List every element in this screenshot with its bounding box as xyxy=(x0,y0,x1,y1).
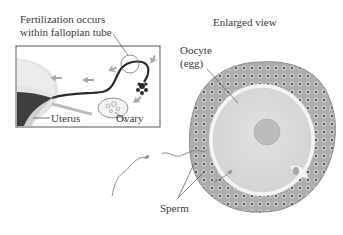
oocyte-label-line1: Oocyte xyxy=(180,44,212,56)
nucleus xyxy=(254,119,280,145)
inset-title-line2: within fallopian tube xyxy=(20,26,112,38)
oocyte-label-line2: (egg) xyxy=(180,57,203,69)
sperm-label: Sperm xyxy=(160,202,189,214)
enlarged-oocyte xyxy=(189,62,335,212)
ovary-label: Ovary xyxy=(116,112,144,124)
inset-title-line1: Fertilization occurs xyxy=(20,13,105,25)
uterus-label: Uterus xyxy=(51,112,80,124)
enlarged-view-label: Enlarged view xyxy=(213,16,277,28)
